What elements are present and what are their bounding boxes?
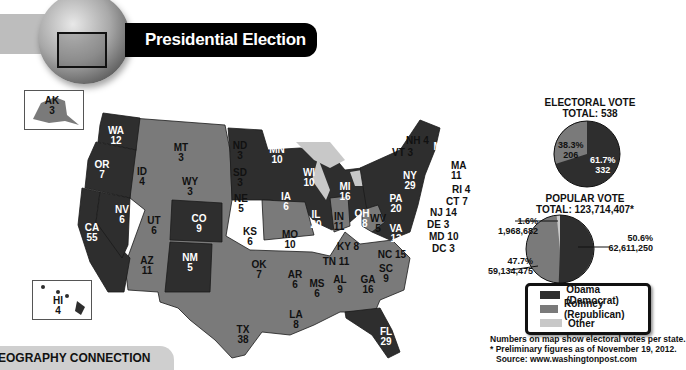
footnote-source: Source: www.washingtonpost.com [496,354,637,364]
state-label-me: ME4 [434,142,449,162]
state-label-la: LA8 [289,310,302,330]
legend-item-other: Other [540,317,595,329]
state-label-hi: HI4 [53,296,63,316]
state-label-co: CO9 [192,214,207,234]
state-label-wy: WY3 [182,177,198,197]
state-label-id: ID4 [137,167,147,187]
state-label-md: MD 10 [429,232,458,242]
state-label-nv: NV6 [115,205,129,225]
globe-frame [57,32,107,68]
electoral-romney-label: 38.3%206 [558,140,584,160]
us-election-map: AK3 HI4 WA12 OR7 CA55 NV6 ID4 MT3 WY3 UT… [0,80,470,362]
state-label-ar: AR6 [288,270,302,290]
state-label-al: AL9 [333,275,346,295]
state-label-ga: GA16 [361,275,376,295]
state-label-ri: RI 4 [452,185,470,195]
state-label-wi: WI10 [303,168,315,188]
state-label-ok: OK7 [252,260,267,280]
state-label-ny: NY29 [403,171,417,191]
state-label-ia: IA6 [281,192,291,212]
state-label-sc: SC9 [379,264,393,284]
electoral-obama-label: 61.7%332 [590,155,616,175]
state-label-il: IL20 [310,210,321,230]
state-label-nc: NC 15 [378,250,406,260]
state-label-ne: NE5 [234,194,248,214]
state-label-va: VA13 [389,224,402,244]
legend-swatch [540,319,562,327]
state-label-mt: MT3 [174,143,188,163]
section-tab: EOGRAPHY CONNECTION [0,346,174,370]
state-label-dc: DC 3 [432,244,455,254]
state-label-nh: NH 4 [406,136,429,146]
state-label-mi: MI16 [339,182,350,202]
state-label-wa: WA12 [108,126,124,146]
popular-other-label: 1.6%1,968,682 [478,216,538,236]
state-label-mn: MN10 [269,145,285,165]
legend-item-romney: Romney (Republican) [540,303,648,315]
state-label-fl: FL29 [380,327,392,347]
state-label-sd: SD3 [233,168,247,188]
state-label-ms: MS6 [310,279,325,299]
legend-swatch [540,305,558,313]
state-label-ca: CA55 [85,223,99,243]
state-label-ks: KS6 [243,227,257,247]
state-label-de: DE 3 [427,220,449,230]
state-label-nd: ND3 [233,141,247,161]
footnote-preliminary: * Preliminary figures as of November 19,… [490,344,677,354]
state-label-wv: WV5 [370,214,386,234]
footnote-electoral: Numbers on map show electoral votes per … [490,334,686,344]
state-label-ak: AK3 [45,96,59,116]
popular-romney-label: 47.7%59,134,475 [478,256,533,276]
state-label-nm: NM5 [182,253,198,273]
state-label-oh: OH18 [355,209,370,229]
state-label-tx: TX38 [237,325,250,345]
state-label-vt: VT 3 [392,148,413,158]
state-label-tn: TN 11 [323,257,350,267]
state-label-pa: PA20 [389,194,402,214]
state-label-or: OR7 [95,160,110,180]
state-label-ct: CT 7 [446,197,468,207]
page-title: Presidential Election of 2012 [125,23,317,57]
legend-swatch [540,291,560,299]
state-label-nj: NJ 14 [430,208,457,218]
state-label-mo: MO10 [282,230,298,250]
state-label-ut: UT6 [147,216,160,236]
state-label-ky: KY 8 [337,242,359,252]
popular-vote-title: POPULAR VOTE TOTAL: 123,714,407* [510,193,660,215]
state-label-ma: MA11 [451,161,467,181]
electoral-vote-title: ELECTORAL VOTE TOTAL: 538 [540,97,640,119]
map-legend: Obama (Democrat) Romney (Republican) Oth… [525,283,651,335]
state-label-in: IN11 [334,212,345,232]
popular-obama-label: 50.6%62,611,250 [595,233,653,253]
state-label-az: AZ11 [140,256,153,276]
